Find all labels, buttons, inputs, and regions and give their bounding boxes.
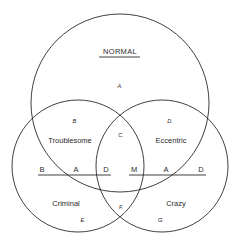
- eccentric-crazy-circle: [96, 100, 228, 232]
- troublesome-label: Troublesome: [48, 136, 92, 145]
- right-axis-m: M: [131, 165, 137, 174]
- left-axis-a: A: [73, 165, 78, 174]
- region-f-label: F.: [119, 204, 123, 210]
- region-e-label: E.: [80, 217, 85, 223]
- region-c-label: C.: [118, 132, 124, 138]
- left-axis-b: B: [39, 165, 44, 174]
- venn-diagram: NORMAL A. B. C. D. E. F. G. Troublesome …: [0, 0, 231, 250]
- crazy-label: Crazy: [166, 199, 186, 208]
- region-g-label: G.: [158, 217, 164, 223]
- region-d-label: D.: [167, 118, 173, 124]
- region-a-label: A.: [116, 83, 122, 89]
- eccentric-label: Eccentric: [156, 136, 187, 145]
- criminal-label: Criminal: [52, 199, 80, 208]
- region-b-label: B.: [72, 118, 77, 124]
- left-axis-d: D: [103, 165, 109, 174]
- normal-title: NORMAL: [103, 47, 137, 56]
- right-axis-a: A: [163, 165, 168, 174]
- right-axis-d: D: [198, 165, 204, 174]
